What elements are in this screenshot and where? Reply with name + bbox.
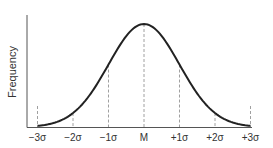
x-tick-label: +3σ xyxy=(242,132,260,143)
x-tick-label: M xyxy=(140,132,148,143)
x-tick-label: −3σ xyxy=(29,132,47,143)
sigma-reference-lines xyxy=(38,24,251,127)
x-tick-label: −2σ xyxy=(64,132,82,143)
x-tick-labels: −3σ−2σ−1σM+1σ+2σ+3σ xyxy=(29,132,260,143)
y-axis-label: Frequency xyxy=(6,46,18,98)
x-tick-label: +1σ xyxy=(171,132,189,143)
x-tick-label: −1σ xyxy=(100,132,118,143)
x-tick-label: +2σ xyxy=(206,132,224,143)
normal-distribution-chart: Frequency −3σ−2σ−1σM+1σ+2σ+3σ xyxy=(0,0,273,148)
